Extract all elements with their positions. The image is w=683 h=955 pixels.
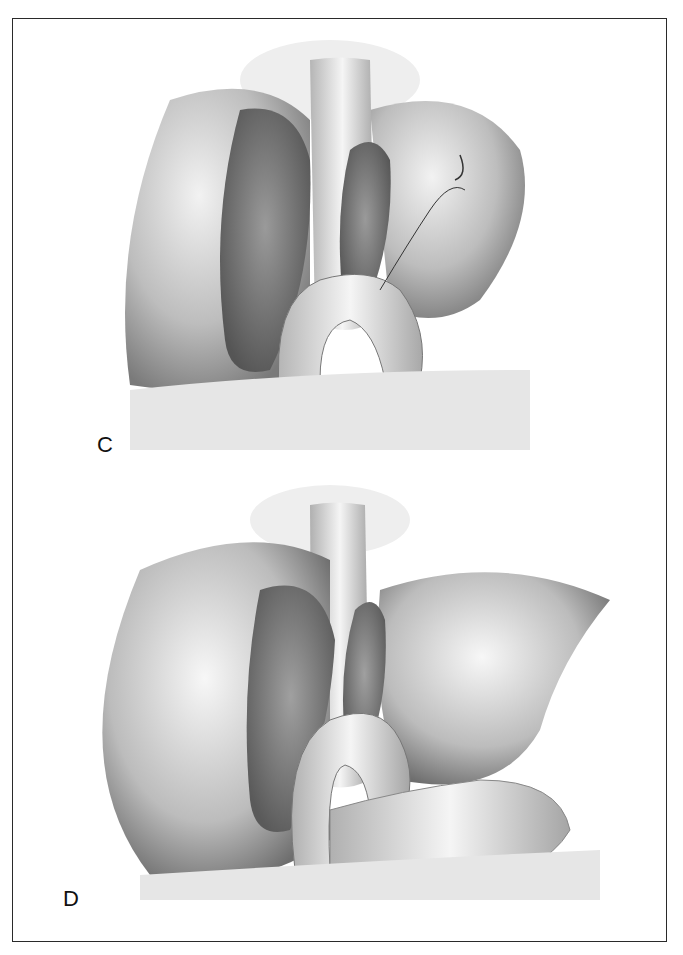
panel-label-c: C bbox=[97, 432, 113, 458]
liver-illustration-d bbox=[80, 480, 640, 900]
illustration-panel-c bbox=[110, 40, 550, 450]
illustration-panel-d bbox=[80, 480, 640, 900]
panel-label-d: D bbox=[63, 886, 79, 912]
liver-illustration-c bbox=[110, 40, 550, 450]
